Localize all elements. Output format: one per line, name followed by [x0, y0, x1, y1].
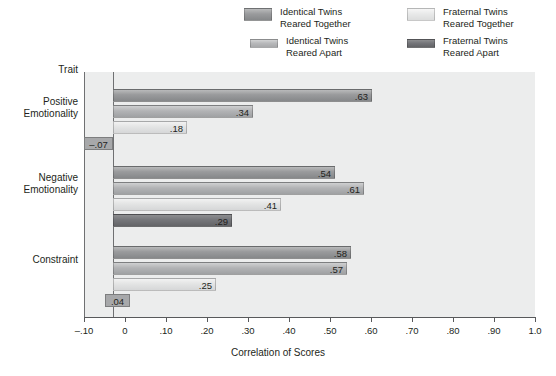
bar-constraint-fraternal-together: .25	[113, 278, 216, 291]
bar-constraint-identical-apart: .57	[113, 262, 347, 275]
legend-swatch-identical-together	[244, 8, 272, 21]
bar-positive-fraternal-apart: –.07	[84, 137, 113, 150]
x-tick-label: .30	[241, 325, 254, 337]
x-tick	[289, 317, 290, 322]
x-tick	[248, 317, 249, 322]
legend-swatch-fraternal-together	[407, 8, 435, 21]
bar-value: .63	[355, 90, 368, 103]
x-tick-label: .50	[323, 325, 336, 337]
bar-value: .25	[199, 279, 212, 292]
x-axis-line	[84, 317, 535, 318]
x-tick-label: .80	[446, 325, 459, 337]
x-tick	[371, 317, 372, 322]
bar-value: .29	[215, 215, 228, 228]
bar-constraint-fraternal-apart: .04	[105, 294, 130, 307]
legend-label-identical-apart: Identical Twins Reared Apart	[286, 35, 348, 58]
bar-value: .58	[334, 247, 347, 260]
legend-item-identical-twins-reared-together: Identical Twins Reared Together	[244, 6, 351, 29]
legend-item-fraternal-twins-reared-together: Fraternal Twins Reared Together	[407, 6, 514, 29]
legend-item-fraternal-twins-reared-apart: Fraternal Twins Reared Apart	[407, 35, 508, 58]
bar-negative-identical-apart: .61	[113, 182, 364, 195]
bar-value: .41	[264, 199, 277, 212]
x-tick	[412, 317, 413, 322]
bar-constraint-identical-together: .58	[113, 246, 351, 259]
category-axis-line	[84, 72, 85, 317]
bar-value: .57	[330, 263, 343, 276]
x-tick-label: .10	[159, 325, 172, 337]
chart-legend: Identical Twins Reared Together Fraterna…	[244, 6, 544, 62]
category-label-negative-emotionality: Negative Emotionality	[0, 172, 78, 195]
x-tick	[535, 317, 536, 322]
legend-label-fraternal-apart: Fraternal Twins Reared Apart	[443, 35, 508, 58]
bar-positive-identical-together: .63	[113, 89, 372, 102]
legend-label-identical-together: Identical Twins Reared Together	[280, 6, 351, 29]
x-tick	[330, 317, 331, 322]
x-tick-label: .40	[282, 325, 295, 337]
bar-value: .34	[236, 106, 249, 119]
bar-value: .54	[318, 167, 331, 180]
x-tick-label: .60	[364, 325, 377, 337]
x-tick	[84, 317, 85, 322]
chart-figure: Identical Twins Reared Together Fraterna…	[0, 0, 556, 376]
bar-negative-fraternal-apart: .29	[113, 214, 232, 227]
legend-swatch-identical-apart	[250, 39, 278, 48]
x-tick-label: .20	[200, 325, 213, 337]
x-axis-title: Correlation of Scores	[0, 347, 556, 358]
x-tick-label: .90	[487, 325, 500, 337]
x-tick	[494, 317, 495, 322]
bar-value: –.07	[84, 137, 113, 150]
legend-item-identical-twins-reared-apart: Identical Twins Reared Apart	[250, 35, 348, 58]
bar-positive-identical-apart: .34	[113, 105, 253, 118]
category-label-positive-emotionality: Positive Emotionality	[0, 96, 78, 119]
category-label-constraint: Constraint	[0, 254, 78, 266]
x-tick	[125, 317, 126, 322]
x-tick	[166, 317, 167, 322]
bar-positive-fraternal-together: .18	[113, 121, 187, 134]
x-tick	[453, 317, 454, 322]
bar-negative-fraternal-together: .41	[113, 198, 281, 211]
x-tick-label: 0	[122, 325, 127, 337]
x-tick-label: .70	[405, 325, 418, 337]
x-tick	[207, 317, 208, 322]
x-tick-label: 1.0	[528, 325, 541, 337]
bar-negative-identical-together: .54	[113, 166, 335, 179]
legend-swatch-fraternal-apart	[407, 39, 435, 48]
bar-value: .18	[170, 122, 183, 135]
category-axis-title: Trait	[0, 64, 78, 76]
bar-value: .04	[105, 294, 130, 307]
bar-value: .61	[347, 183, 360, 196]
legend-label-fraternal-together: Fraternal Twins Reared Together	[443, 6, 514, 29]
x-tick-label: –.10	[75, 325, 94, 337]
